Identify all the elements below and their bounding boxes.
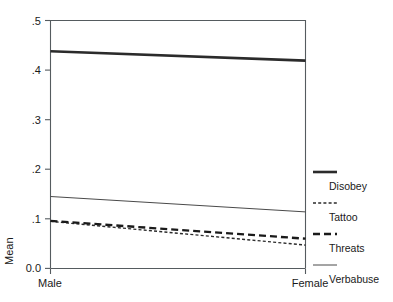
series-line-disobey	[51, 51, 306, 60]
y-tick-label-1: .1	[32, 213, 41, 225]
x-axis-ticks	[51, 269, 306, 275]
plot-frame	[51, 20, 306, 269]
y-tick-label-4: .4	[32, 64, 41, 76]
chart-container: .5 .4 .3 .2 .1 0.0 Male Female Mean Diso…	[0, 0, 393, 302]
series-line-tattoo	[51, 221, 306, 245]
line-chart: .5 .4 .3 .2 .1 0.0 Male Female Mean Diso…	[0, 0, 393, 302]
legend: Disobey Tattoo Threats Verbabuse	[313, 172, 379, 285]
legend-label-tattoo: Tattoo	[329, 211, 358, 223]
y-tick-label-2: .2	[32, 163, 41, 175]
legend-label-verbabuse: Verbabuse	[329, 273, 379, 285]
series-line-threats	[51, 221, 306, 239]
y-tick-label-5: .5	[32, 15, 41, 27]
legend-label-threats: Threats	[329, 242, 365, 254]
y-tick-label-3: .3	[32, 114, 41, 126]
y-axis-title: Mean	[3, 237, 15, 265]
y-axis-ticks	[45, 21, 51, 269]
y-tick-label-0: 0.0	[26, 262, 41, 274]
series-lines	[51, 51, 306, 245]
x-tick-label-male: Male	[38, 277, 62, 289]
x-tick-label-female: Female	[292, 277, 329, 289]
legend-label-disobey: Disobey	[329, 180, 368, 192]
series-line-verbabuse	[51, 197, 306, 212]
